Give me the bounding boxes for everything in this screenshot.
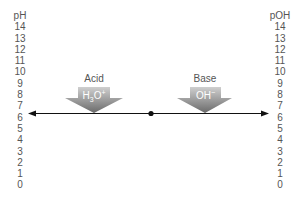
poh-tick: 7: [266, 100, 294, 111]
acid-label: Acid: [74, 73, 114, 84]
ion-part: OH: [196, 90, 211, 101]
diagram-canvas: [0, 0, 299, 214]
poh-tick: 13: [266, 33, 294, 44]
ph-tick: 14: [8, 21, 32, 32]
poh-tick: 14: [266, 21, 294, 32]
poh-tick: 9: [266, 78, 294, 89]
poh-tick: 11: [266, 55, 294, 66]
neutral-point-dot: [148, 111, 153, 116]
ion-superscript: +: [101, 89, 105, 96]
ph-tick: 1: [8, 168, 32, 179]
ph-scale: pH 14 13 12 11 10 9 8 7 6 5 4 3 2 1 0: [8, 10, 32, 191]
ph-tick: 0: [8, 179, 32, 190]
ph-tick: 2: [8, 157, 32, 168]
ph-scale-title: pH: [8, 10, 32, 21]
base-ion-box: OH−: [190, 86, 221, 98]
poh-tick: 5: [266, 123, 294, 134]
ph-tick: 13: [8, 33, 32, 44]
ph-tick: 4: [8, 134, 32, 145]
acid-ion-box: H3O+: [78, 86, 110, 98]
poh-tick: 1: [266, 168, 294, 179]
ph-tick: 12: [8, 44, 32, 55]
acid-ion-label: H3O+: [78, 89, 110, 103]
ph-tick: 5: [8, 123, 32, 134]
base-ion-label: OH−: [190, 89, 221, 101]
poh-tick: 10: [266, 66, 294, 77]
poh-tick: 4: [266, 134, 294, 145]
ph-tick: 7: [8, 100, 32, 111]
poh-scale-title: pOH: [266, 10, 294, 21]
ph-tick: 10: [8, 66, 32, 77]
ion-part: H: [82, 90, 89, 101]
poh-tick: 6: [266, 112, 294, 123]
ph-tick: 9: [8, 78, 32, 89]
poh-tick: 3: [266, 146, 294, 157]
poh-tick: 0: [266, 179, 294, 190]
ph-tick: 8: [8, 89, 32, 100]
ph-tick: 3: [8, 146, 32, 157]
poh-tick: 2: [266, 157, 294, 168]
poh-tick: 8: [266, 89, 294, 100]
ph-tick: 6: [8, 112, 32, 123]
ion-superscript: −: [211, 89, 215, 96]
poh-tick: 12: [266, 44, 294, 55]
ph-tick: 11: [8, 55, 32, 66]
base-label: Base: [184, 73, 226, 84]
poh-scale: pOH 14 13 12 11 10 9 8 7 6 5 4 3 2 1 0: [266, 10, 294, 191]
